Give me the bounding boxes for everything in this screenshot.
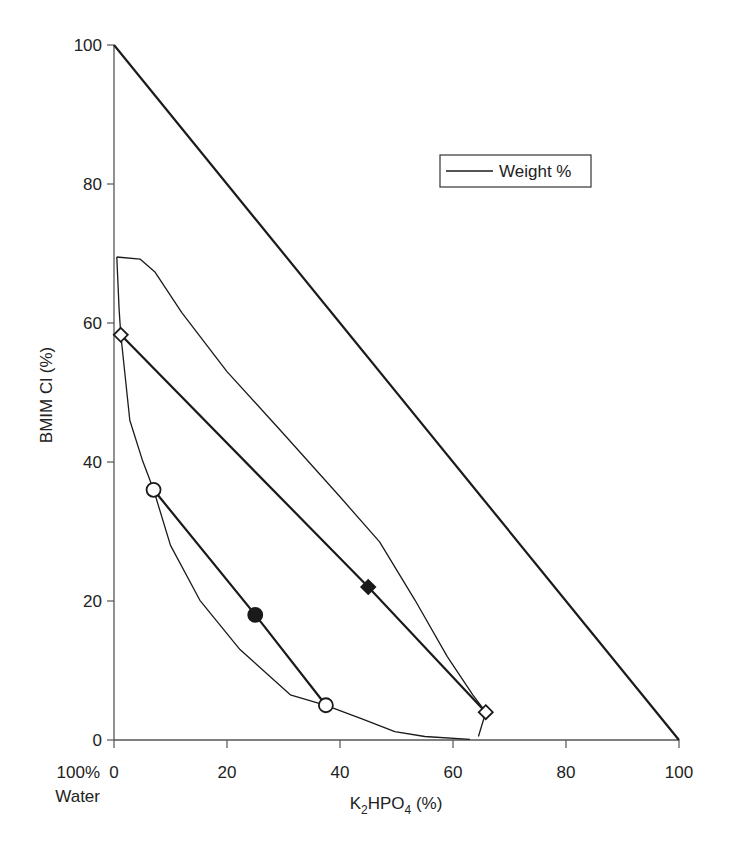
x-axis-title-unit: (%) <box>411 794 442 813</box>
x-tick-label: 0 <box>109 763 118 782</box>
y-tick-label: 20 <box>83 592 102 611</box>
x-axis-title-hpo: HPO <box>368 794 405 813</box>
series-line-3 <box>121 335 486 712</box>
origin-label-percent: 100% <box>57 763 100 782</box>
x-axis-title-k: K <box>350 794 362 813</box>
series-line-0 <box>114 45 679 740</box>
open-circle-marker <box>319 698 333 712</box>
legend-label: Weight % <box>499 162 571 181</box>
legend: Weight % <box>440 155 591 187</box>
series-layer <box>114 45 679 740</box>
x-tick-label: 100 <box>665 763 693 782</box>
filled-circle-marker <box>248 608 262 622</box>
series-line-2 <box>117 257 470 739</box>
x-tick-label: 40 <box>331 763 350 782</box>
y-tick-label: 80 <box>83 175 102 194</box>
ternary-phase-diagram: 020406080100020406080100 Weight % BMIM C… <box>0 0 729 849</box>
x-tick-label: 60 <box>444 763 463 782</box>
y-tick-label: 100 <box>74 36 102 55</box>
x-axis-title: K2HPO4 (%) <box>350 794 443 817</box>
axes: 020406080100020406080100 <box>74 36 694 782</box>
y-tick-label: 40 <box>83 453 102 472</box>
y-tick-label: 0 <box>93 731 102 750</box>
origin-label-water: Water <box>55 787 100 806</box>
x-tick-label: 20 <box>218 763 237 782</box>
x-tick-label: 80 <box>557 763 576 782</box>
series-line-4 <box>154 490 326 706</box>
y-axis-title: BMIM Cl (%) <box>37 347 56 443</box>
series-line-1 <box>117 257 486 737</box>
open-circle-marker <box>147 483 161 497</box>
y-tick-label: 60 <box>83 314 102 333</box>
